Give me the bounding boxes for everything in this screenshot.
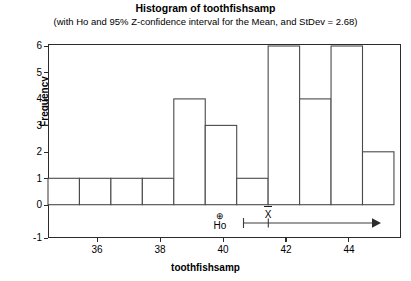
x-tick-label-42: 42 [266, 245, 306, 255]
x-tick-mark-40 [223, 238, 224, 242]
bar-group [48, 46, 394, 205]
x-tick-label-44: 44 [329, 245, 369, 255]
bar-0 [48, 178, 79, 204]
x-tick-mark-44 [348, 238, 349, 242]
bar-6 [237, 178, 268, 204]
bar-9 [331, 46, 362, 205]
bar-3 [142, 178, 173, 204]
x-tick-mark-42 [285, 238, 286, 242]
histogram-figure: Histogram of toothfishsamp (with Ho and … [0, 0, 411, 281]
bar-2 [111, 178, 142, 204]
xbar-marker: X [253, 206, 283, 220]
x-tick-label-40: 40 [203, 245, 243, 255]
x-tick-mark-36 [97, 238, 98, 242]
x-tick-label-38: 38 [140, 245, 180, 255]
xbar-label: X [265, 209, 272, 220]
bar-10 [363, 152, 394, 205]
ho-label: Ho [205, 220, 235, 231]
bar-8 [300, 99, 331, 205]
bar-1 [79, 178, 110, 204]
ci-arrowhead [372, 218, 381, 228]
bar-5 [205, 125, 236, 204]
x-tick-label-36: 36 [77, 245, 117, 255]
ho-circle-icon: ⊕ [205, 212, 235, 220]
bar-7 [268, 46, 299, 205]
bar-4 [174, 99, 205, 205]
ho-marker: ⊕ Ho [205, 212, 235, 231]
x-tick-mark-38 [160, 238, 161, 242]
